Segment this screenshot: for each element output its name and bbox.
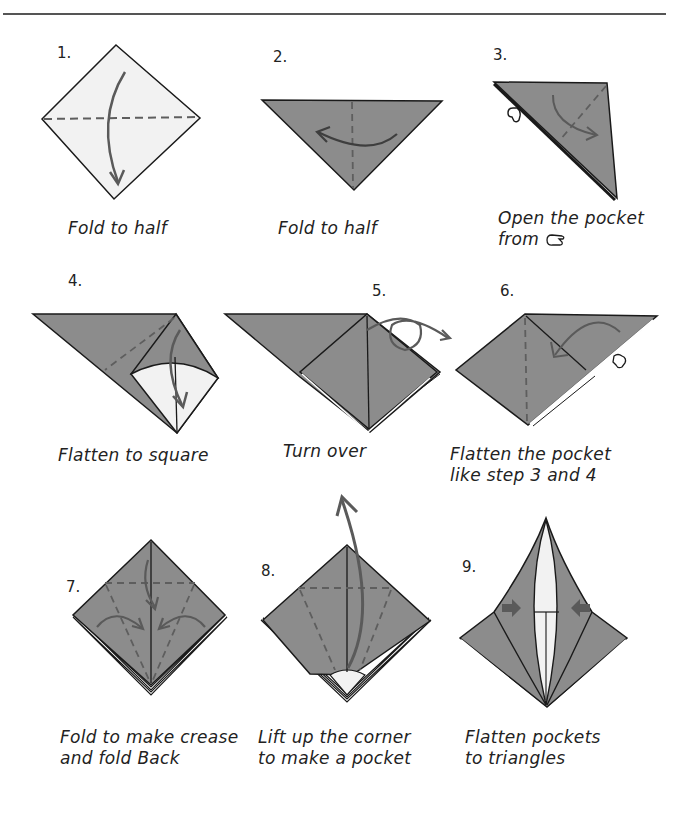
step-caption: Flatten pockets to triangles	[465, 727, 601, 769]
diagram-flatten-triangles	[0, 0, 695, 814]
